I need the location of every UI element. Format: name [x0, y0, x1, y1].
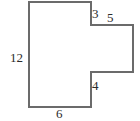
l-shaped-polygon-outline [29, 2, 133, 107]
dimension-label-top-step: 3 [92, 7, 99, 20]
dimension-label-notch: 4 [92, 79, 99, 92]
dimension-label-right-arm: 5 [107, 11, 114, 24]
dimension-label-left: 12 [10, 51, 23, 64]
dimension-label-bottom: 6 [56, 107, 63, 120]
figure-canvas: 12 3 5 4 6 [0, 0, 140, 121]
